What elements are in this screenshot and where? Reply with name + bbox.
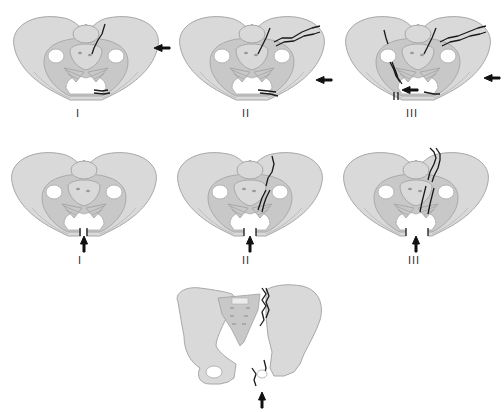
right-hemipelvis [266, 285, 321, 376]
pelvis-diagram [168, 142, 338, 242]
symphysis-gap [406, 224, 428, 238]
label-lc-1: I [58, 107, 98, 119]
panel-apc-2 [168, 142, 338, 242]
si-fracture-line [260, 288, 266, 326]
panel-lc-3 [336, 6, 504, 106]
force-arrow-icon [316, 77, 332, 84]
force-arrow-icon [247, 236, 254, 252]
force-arrow-icon [413, 236, 420, 252]
label-lc-3: III [392, 107, 432, 119]
force-arrow-icon [259, 392, 266, 408]
pelvis-diagram [4, 6, 174, 106]
rami-fracture-line [252, 368, 256, 386]
pelvis-diagram [336, 6, 504, 106]
label-lc-2: II [226, 107, 266, 119]
panel-apc-1 [2, 142, 172, 242]
label-apc-1: I [60, 254, 100, 266]
panel-lc-2 [170, 6, 340, 106]
pelvis-diagram [334, 142, 504, 242]
label-apc-2: II [226, 254, 266, 266]
panel-apc-3 [334, 142, 504, 242]
pelvis-diagram [170, 6, 340, 106]
pelvis-diagram [2, 142, 172, 242]
force-arrow-icon [81, 236, 88, 252]
force-arrow-icon [484, 75, 500, 82]
panel-lc-1 [4, 6, 174, 106]
panel-vertical-shear [170, 280, 340, 410]
label-apc-3: III [394, 254, 434, 266]
pelvis-ap-diagram [170, 280, 340, 410]
